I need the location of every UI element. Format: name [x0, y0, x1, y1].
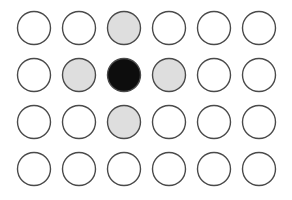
circle-grid-figure: [0, 0, 292, 200]
circle-r4-c3[interactable]: [108, 153, 141, 186]
circle-r4-c5[interactable]: [198, 153, 231, 186]
circle-r1-c1[interactable]: [18, 12, 51, 45]
circle-r4-c4[interactable]: [153, 153, 186, 186]
circle-r1-c5[interactable]: [198, 12, 231, 45]
circle-r3-c6[interactable]: [243, 106, 276, 139]
circle-r2-c5[interactable]: [198, 59, 231, 92]
circle-r4-c1[interactable]: [18, 153, 51, 186]
circle-r2-c3[interactable]: [108, 59, 141, 92]
circle-r4-c6[interactable]: [243, 153, 276, 186]
circle-r3-c2[interactable]: [63, 106, 96, 139]
circle-r2-c4[interactable]: [153, 59, 186, 92]
circle-r3-c1[interactable]: [18, 106, 51, 139]
circle-r3-c5[interactable]: [198, 106, 231, 139]
circle-r1-c6[interactable]: [243, 12, 276, 45]
circle-r2-c2[interactable]: [63, 59, 96, 92]
circle-r2-c6[interactable]: [243, 59, 276, 92]
circle-r4-c2[interactable]: [63, 153, 96, 186]
circle-r2-c1[interactable]: [18, 59, 51, 92]
circle-r3-c3[interactable]: [108, 106, 141, 139]
circle-r1-c3[interactable]: [108, 12, 141, 45]
circle-grid-canvas: [0, 0, 292, 200]
circle-r1-c4[interactable]: [153, 12, 186, 45]
circle-r3-c4[interactable]: [153, 106, 186, 139]
circle-r1-c2[interactable]: [63, 12, 96, 45]
